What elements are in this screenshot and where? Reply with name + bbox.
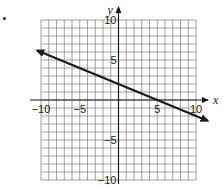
x-tick-label: −10 xyxy=(32,103,51,115)
y-tick-label: 10 xyxy=(104,14,116,26)
x-tick-label: 5 xyxy=(154,103,160,115)
coordinate-graph: xy −10−5510105−5−10 xyxy=(0,0,223,187)
graph-line xyxy=(37,50,208,120)
y-tick-label: −5 xyxy=(104,134,117,146)
y-tick-label: 5 xyxy=(110,54,116,66)
x-tick-label: −5 xyxy=(73,103,86,115)
y-tick-label: −10 xyxy=(98,174,117,186)
x-axis-label: x xyxy=(212,93,219,107)
axes: xy xyxy=(30,3,219,184)
plotted-line xyxy=(37,50,208,120)
